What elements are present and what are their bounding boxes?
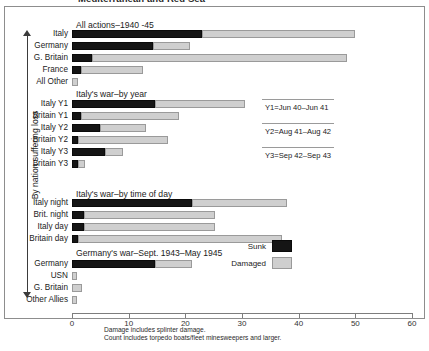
bar-row: [0, 272, 429, 280]
bar-row: [0, 54, 429, 62]
bar-segment-damaged: [92, 54, 347, 62]
bar-row: [0, 78, 429, 86]
bar-segment-sunk: [72, 30, 202, 38]
bar-row: [0, 160, 429, 168]
bar-segment-damaged: [78, 136, 168, 144]
x-axis-tick: [129, 313, 130, 318]
bar-segment-sunk: [72, 148, 105, 156]
x-axis-tick: [185, 313, 186, 318]
x-axis-tick: [242, 313, 243, 318]
bar-row: [0, 136, 429, 144]
bar-segment-damaged: [84, 211, 215, 219]
legend-label-damaged: Damaged: [231, 259, 266, 268]
group-title-1: All actions–1940 -45: [76, 20, 154, 30]
bar-row: [0, 42, 429, 50]
x-axis-tick-label: 0: [70, 319, 74, 328]
legend-swatch-sunk: [272, 240, 292, 252]
group-title-2: Italy's war–by year: [76, 89, 147, 99]
bar-segment-damaged: [192, 199, 287, 207]
bar-row: [0, 112, 429, 120]
annotation-2: Y2=Aug 41–Aug 42: [265, 127, 331, 136]
x-axis-tick-label: 50: [351, 319, 360, 328]
bar-segment-sunk: [72, 54, 92, 62]
bar-row: [0, 199, 429, 207]
bar-segment-sunk: [72, 211, 84, 219]
bar-segment-damaged: [155, 100, 245, 108]
bar-segment-damaged: [72, 296, 77, 304]
bar-row: [0, 235, 429, 243]
bar-segment-damaged: [100, 124, 145, 132]
x-axis-tick: [299, 313, 300, 318]
annotation-1: Y1=Jun 40–Jun 41: [265, 103, 329, 112]
bar-segment-sunk: [72, 223, 84, 231]
bar-row: [0, 296, 429, 304]
x-axis-tick: [412, 313, 413, 318]
x-axis-tick-label: 40: [294, 319, 303, 328]
bar-segment-damaged: [153, 42, 190, 50]
bar-segment-damaged: [84, 223, 215, 231]
x-axis-tick: [72, 313, 73, 318]
page-title: Mediterranean and Red Sea: [78, 0, 378, 4]
bar-segment-damaged: [81, 66, 143, 74]
bar-segment-damaged: [72, 78, 78, 86]
bar-row: [0, 100, 429, 108]
bar-segment-sunk: [72, 124, 100, 132]
bar-segment-damaged: [78, 160, 85, 168]
x-axis-tick: [355, 313, 356, 318]
bar-row: [0, 260, 429, 268]
bar-row: [0, 66, 429, 74]
annotation-rule-1: [262, 99, 334, 100]
bar-row: [0, 223, 429, 231]
bar-segment-damaged: [155, 260, 192, 268]
bar-row: [0, 124, 429, 132]
legend-swatch-damaged: [272, 257, 292, 269]
bar-segment-sunk: [72, 260, 155, 268]
bar-segment-damaged: [72, 272, 77, 280]
annotation-rule-2: [262, 123, 334, 124]
annotation-3: Y3=Sep 42–Sep 43: [265, 151, 331, 160]
footnote-1: Damage includes splinter damage.: [104, 326, 206, 333]
legend-label-sunk: Sunk: [248, 242, 266, 251]
x-axis-tick-label: 60: [408, 319, 417, 328]
bar-segment-sunk: [72, 199, 192, 207]
bar-segment-damaged: [202, 30, 355, 38]
bar-segment-damaged: [72, 284, 82, 292]
bar-segment-sunk: [72, 112, 81, 120]
bar-segment-sunk: [72, 66, 81, 74]
bar-segment-damaged: [81, 112, 179, 120]
bar-row: [0, 211, 429, 219]
footnote-2: Count includes torpedo boats/fleet mines…: [104, 334, 281, 341]
bar-row: [0, 284, 429, 292]
group-title-3: Italy's war–by time of day: [76, 189, 172, 199]
chart-stage: Mediterranean and Red Sea By nation suff…: [0, 0, 429, 351]
annotation-rule-3: [262, 147, 334, 148]
bar-segment-sunk: [72, 42, 153, 50]
bar-segment-damaged: [105, 148, 123, 156]
x-axis-tick-label: 30: [238, 319, 247, 328]
bar-row: [0, 30, 429, 38]
bar-segment-sunk: [72, 100, 155, 108]
group-title-4: Germany's war–Sept. 1943–May 1945: [76, 248, 222, 258]
bar-row: [0, 148, 429, 156]
